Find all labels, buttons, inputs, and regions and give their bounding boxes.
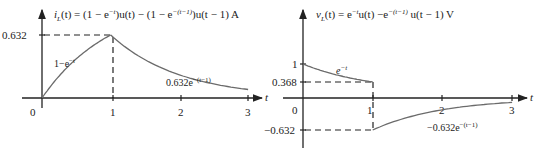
negative-annotation: −0.632e−(t−1) [427, 121, 478, 133]
y-tick-label: −0.632 [264, 124, 295, 136]
y-tick-label: 1 [292, 58, 298, 70]
x-axis-label: t [265, 91, 269, 103]
x-tick-label: 1 [110, 106, 116, 118]
figure: t iL(t) = (1 − e−t)u(t) − (1 − e−(t−1))u… [0, 0, 548, 156]
y-tick-label: 0.632 [2, 29, 27, 41]
x-tick-label: 1 [367, 104, 373, 116]
plot-title: vL(t) = e−tu(t) −e−(t−1) u(t − 1) V [316, 8, 454, 23]
rise-annotation: 1−e−t [54, 57, 75, 69]
x-axis-label: t [530, 91, 534, 103]
x-tick-label: 3 [509, 104, 515, 116]
x-tick-label: 0 [30, 106, 36, 118]
x-tick-label: 3 [245, 106, 251, 118]
decay-annotation: e−t [336, 64, 348, 76]
y-tick-label: 0.368 [272, 76, 297, 88]
decay-annotation: 0.632e−(t−1) [166, 76, 212, 88]
rise-curve [42, 35, 111, 98]
plot-title: iL(t) = (1 − e−t)u(t) − (1 − e−(t−1))u(t… [54, 8, 239, 23]
x-tick-label: 2 [178, 106, 184, 118]
voltage-plot: t vL(t) = e−tu(t) −e−(t−1) u(t − 1) V 0 … [264, 8, 534, 148]
current-plot: t iL(t) = (1 − e−t)u(t) − (1 − e−(t−1))u… [2, 8, 269, 118]
x-tick-label: 0 [292, 104, 298, 116]
